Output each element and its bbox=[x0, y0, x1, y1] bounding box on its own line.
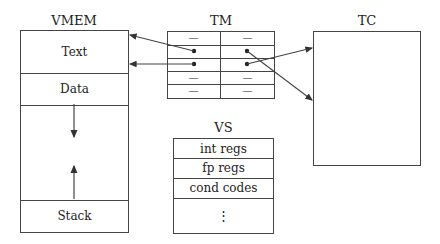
tm-to-tc-arrow bbox=[247, 51, 312, 100]
arrow-overlay bbox=[0, 0, 440, 244]
tm-to-tc-arrow bbox=[247, 48, 312, 64]
tm-to-vmem-text-arrow bbox=[130, 35, 194, 51]
